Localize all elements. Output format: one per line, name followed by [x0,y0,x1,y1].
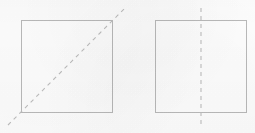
left-diagonal-symmetry-line [8,8,125,125]
symmetry-figure-svg [0,0,255,133]
figure-canvas [0,0,255,133]
